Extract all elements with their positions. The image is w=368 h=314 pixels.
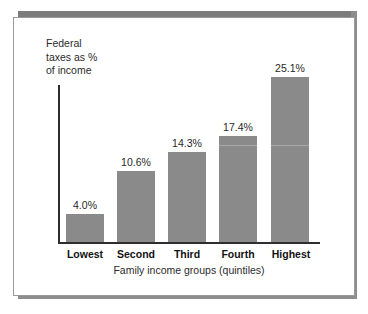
chart-screenshot: Federal taxes as % of income 4.0% Lowest… (0, 0, 368, 314)
x-tick-label-lowest: Lowest (59, 248, 111, 260)
bar-third (168, 152, 206, 242)
bar-second (117, 171, 155, 242)
bar-highest (271, 77, 309, 242)
bar-scanline (117, 71, 155, 72)
x-tick-label-highest: Highest (263, 248, 319, 260)
x-axis-title: Family income groups (quintiles) (58, 264, 320, 276)
bar-scanline (168, 52, 206, 53)
y-axis-line (58, 85, 60, 244)
bar-value-third: 14.3% (164, 137, 210, 149)
bar-value-lowest: 4.0% (66, 199, 104, 211)
bar-value-fourth: 17.4% (215, 121, 261, 133)
bar-chart-plot: Federal taxes as % of income 4.0% Lowest… (0, 0, 368, 314)
bar-fourth (219, 136, 257, 242)
bar-scanline (219, 145, 257, 146)
x-axis-line (58, 242, 320, 244)
y-axis-title: Federal taxes as % of income (46, 37, 97, 78)
bar-value-highest: 25.1% (267, 62, 313, 74)
x-tick-label-third: Third (161, 248, 213, 260)
x-tick-label-second: Second (110, 248, 162, 260)
bar-scanline (271, 145, 309, 146)
bar-scanline (66, 114, 104, 115)
x-tick-label-fourth: Fourth (212, 248, 264, 260)
bar-value-second: 10.6% (113, 156, 159, 168)
bar-lowest (66, 214, 104, 242)
